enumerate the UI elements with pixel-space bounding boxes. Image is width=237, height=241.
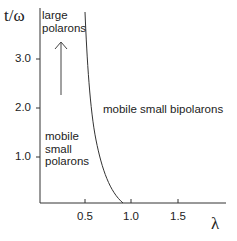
y-tick-label: 3.0 [15,52,31,64]
chart-canvas [0,0,237,241]
x-tick-label: 0.5 [77,210,93,222]
bipolarons-label: mobile small bipolarons [103,103,223,116]
y-tick-label: 1.0 [15,150,31,162]
label-line: polarons [42,22,86,35]
x-axis-label: λ [211,214,219,234]
y-tick-label: 2.0 [15,101,31,113]
label-line: mobile [45,130,89,143]
y-axis-label: t/ω [4,6,25,26]
label-line: small [45,143,89,156]
x-tick-label: 1.5 [170,210,186,222]
x-tick-label: 1.0 [123,210,139,222]
large-polarons-label: large polarons [42,9,86,34]
small-polarons-label: mobile small polarons [45,130,89,168]
label-line: polarons [45,155,89,168]
label-line: large [42,9,86,22]
